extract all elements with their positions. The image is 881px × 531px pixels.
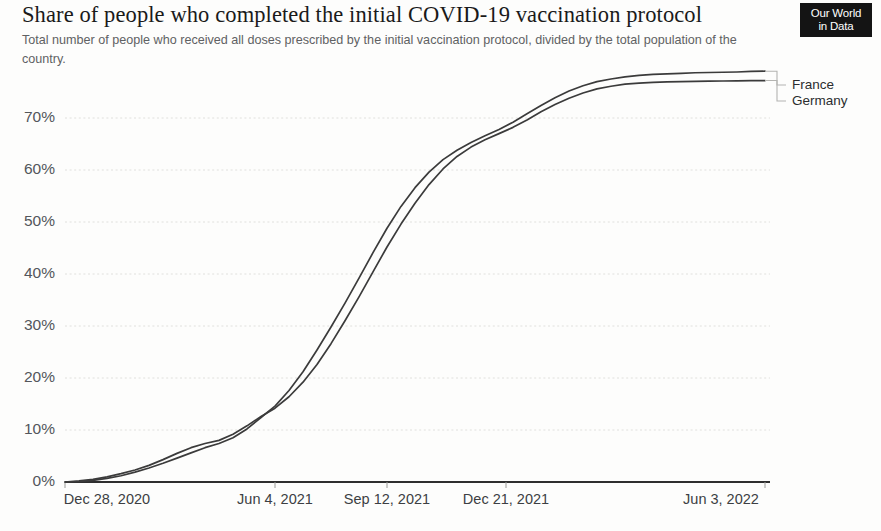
y-axis-tick-label: 0% bbox=[33, 472, 56, 489]
line-chart: 0%10%20%30%40%50%60%70% Dec 28, 2020Jun … bbox=[0, 0, 881, 531]
y-axis-tick-label: 60% bbox=[24, 160, 55, 177]
chart-svg: 0%10%20%30%40%50%60%70% Dec 28, 2020Jun … bbox=[0, 0, 881, 531]
chart-page: Share of people who completed the initia… bbox=[0, 0, 881, 531]
legend-leader-line bbox=[765, 81, 786, 101]
y-axis-tick-labels: 0%10%20%30%40%50%60%70% bbox=[24, 108, 55, 489]
y-axis-tick-label: 70% bbox=[24, 108, 55, 125]
data-series bbox=[65, 71, 765, 482]
y-axis-tick-label: 50% bbox=[24, 212, 55, 229]
x-axis-tick-label: Jun 3, 2022 bbox=[683, 491, 759, 507]
x-axis-tick-label: Sep 12, 2021 bbox=[344, 491, 430, 507]
legend-label-france[interactable]: France bbox=[792, 77, 834, 92]
y-axis-tick-label: 40% bbox=[24, 264, 55, 281]
gridlines bbox=[65, 118, 770, 430]
x-axis-tick-label: Dec 21, 2021 bbox=[463, 491, 549, 507]
legend-label-germany[interactable]: Germany bbox=[792, 93, 848, 108]
x-axis-tick-label: Jun 4, 2021 bbox=[237, 491, 313, 507]
legend-leader-line bbox=[765, 71, 786, 85]
y-axis-tick-label: 10% bbox=[24, 420, 55, 437]
chart-legend: FranceGermany bbox=[765, 71, 848, 107]
series-line-france bbox=[65, 71, 765, 482]
y-axis-tick-label: 30% bbox=[24, 316, 55, 333]
x-axis-tick-labels: Dec 28, 2020Jun 4, 2021Sep 12, 2021Dec 2… bbox=[64, 491, 759, 507]
x-axis-tick-label: Dec 28, 2020 bbox=[64, 491, 150, 507]
x-axis bbox=[65, 482, 770, 488]
series-line-germany bbox=[65, 81, 765, 482]
y-axis-tick-label: 20% bbox=[24, 368, 55, 385]
